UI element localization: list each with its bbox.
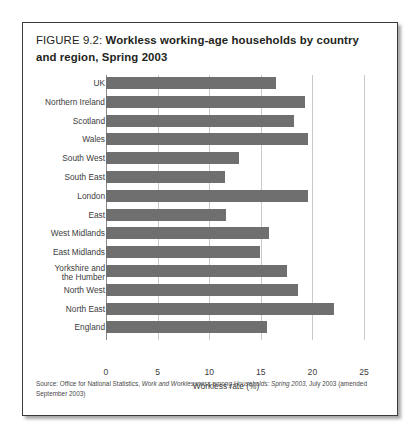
chart-row: UK (23, 77, 399, 96)
chart-row: North West (23, 284, 399, 303)
bar (106, 133, 308, 145)
bar (106, 227, 269, 239)
x-tick-label: 0 (86, 367, 126, 377)
category-label: UK (0, 79, 105, 88)
chart-plot-area: UKNorthern IrelandScotlandWalesSouth Wes… (23, 75, 399, 367)
chart-row: Scotland (23, 115, 399, 134)
x-tick-label: 5 (138, 367, 178, 377)
bar (106, 115, 294, 127)
bar (106, 246, 260, 258)
bar (106, 171, 225, 183)
source-prefix: Source: Office for National Statistics, (36, 380, 142, 387)
bar (106, 77, 276, 89)
source-title: Work and Worklessness among Households: … (142, 380, 306, 387)
category-label: East Midlands (0, 248, 105, 257)
category-label: West Midlands (0, 229, 105, 238)
chart-row: London (23, 190, 399, 209)
category-label: Wales (0, 135, 105, 144)
bar (106, 284, 298, 296)
chart-row: North East (23, 303, 399, 322)
chart-row: West Midlands (23, 227, 399, 246)
category-label: Northern Ireland (0, 98, 105, 107)
category-label: England (0, 323, 105, 332)
chart-row: Yorkshire and the Humber (23, 265, 399, 284)
x-tick-label: 15 (241, 367, 281, 377)
bar (106, 303, 334, 315)
category-label: South West (0, 154, 105, 163)
bar (106, 190, 308, 202)
chart-row: Wales (23, 133, 399, 152)
category-label: Scotland (0, 117, 105, 126)
chart-row: East (23, 209, 399, 228)
category-label: South East (0, 173, 105, 182)
figure-number: FIGURE 9.2: (36, 34, 102, 46)
figure-container: FIGURE 9.2: Workless working-age househo… (22, 22, 398, 416)
x-tick-label: 25 (344, 367, 384, 377)
category-label: East (0, 211, 105, 220)
source-note: Source: Office for National Statistics, … (36, 379, 384, 398)
bar (106, 265, 287, 277)
category-label: London (0, 192, 105, 201)
bar (106, 321, 267, 333)
figure-title: FIGURE 9.2: Workless working-age househo… (36, 32, 374, 65)
chart-row: South East (23, 171, 399, 190)
category-label: North West (0, 286, 105, 295)
bar (106, 152, 239, 164)
chart-row: South West (23, 152, 399, 171)
category-label: Yorkshire and the Humber (0, 264, 105, 282)
chart-row: Northern Ireland (23, 96, 399, 115)
bar (106, 209, 226, 221)
x-tick-label: 10 (189, 367, 229, 377)
category-label: North East (0, 305, 105, 314)
bar (106, 96, 305, 108)
chart-row: England (23, 321, 399, 340)
x-tick-label: 20 (292, 367, 332, 377)
